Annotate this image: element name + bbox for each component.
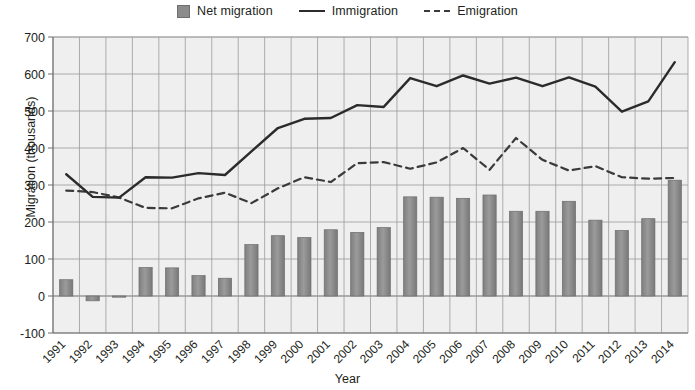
y-tick-label: 100 — [24, 253, 45, 267]
y-tick-label: 600 — [24, 68, 45, 82]
x-tick-label: 1994 — [119, 337, 148, 366]
x-tick-label: 2004 — [384, 337, 413, 366]
x-tick-label: 2001 — [304, 337, 333, 366]
y-tick-label: -100 — [20, 327, 45, 341]
migration-chart: Net migration Immigration Emigration Mig… — [0, 0, 695, 390]
x-tick-label: 2005 — [410, 337, 439, 366]
x-tick-label: 1999 — [251, 337, 280, 366]
x-tick-label: 2014 — [648, 337, 677, 366]
x-tick-label: 2008 — [489, 337, 518, 366]
x-tick-label: 2010 — [542, 337, 571, 366]
y-tick-label: 300 — [24, 179, 45, 193]
y-tick-label: 400 — [24, 142, 45, 156]
x-tick-label: 1997 — [198, 337, 227, 366]
x-tick-label: 2006 — [436, 337, 465, 366]
x-tick-label: 1993 — [92, 337, 121, 366]
x-tick-label: 2011 — [569, 337, 597, 365]
x-tick-labels: 1991199219931994199519961997199819992000… — [40, 337, 678, 366]
y-tick-labels: -1000100200300400500600700 — [20, 31, 53, 341]
x-tick-label: 2009 — [516, 337, 545, 366]
y-tick-label: 500 — [24, 105, 45, 119]
x-tick-label: 2007 — [463, 337, 492, 366]
plot-svg: -1000100200300400500600700 1991199219931… — [0, 0, 695, 390]
plot-area: -1000100200300400500600700 1991199219931… — [0, 0, 695, 390]
x-tick-label: 1998 — [225, 337, 254, 366]
x-tick-label: 2012 — [595, 337, 624, 366]
y-tick-label: 0 — [38, 290, 45, 304]
x-tick-label: 2002 — [331, 337, 360, 366]
y-tick-label: 700 — [24, 31, 45, 45]
x-tick-label: 1996 — [172, 337, 201, 366]
x-tick-label: 1995 — [145, 337, 174, 366]
x-tick-label: 1992 — [66, 337, 95, 366]
x-tick-label: 2000 — [278, 337, 307, 366]
x-tick-label: 2013 — [622, 337, 651, 366]
x-tick-label: 2003 — [357, 337, 386, 366]
y-tick-label: 200 — [24, 216, 45, 230]
x-tick-label: 1991 — [40, 337, 69, 366]
